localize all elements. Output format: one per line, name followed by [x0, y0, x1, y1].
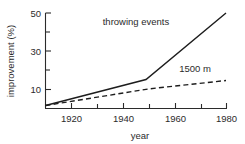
x-tick-label-1920: 1920	[61, 113, 82, 124]
x-axis-title: year	[131, 130, 149, 141]
y-tick-label-30: 30	[30, 46, 41, 57]
y-tick-label-50: 50	[30, 8, 41, 19]
chart-figure: 50 30 10 1920 1940 1960 1980 improvement…	[0, 0, 245, 144]
y-axis-title: improvement (%)	[5, 25, 16, 97]
y-tick-label-10: 10	[30, 84, 41, 95]
x-tick-label-1960: 1960	[165, 113, 186, 124]
x-tick-label-1980: 1980	[216, 113, 237, 124]
series-label-throwing-events: throwing events	[103, 16, 170, 27]
series-label-1500m: 1500 m	[179, 63, 211, 74]
series-1500m-line	[46, 81, 227, 106]
x-tick-label-1940: 1940	[113, 113, 134, 124]
